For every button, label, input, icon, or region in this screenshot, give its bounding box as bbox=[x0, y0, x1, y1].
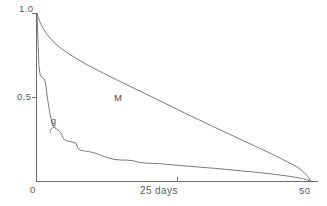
y-axis-tick-label-mid: 0.5 bbox=[17, 92, 31, 102]
chart-figure: 1.0 0.5 0 25 days 50 M g bbox=[0, 0, 327, 206]
curve-label-m: M bbox=[114, 93, 122, 103]
x-axis-tick-label-zero: 0 bbox=[30, 185, 36, 195]
curve-m-path bbox=[37, 14, 311, 182]
x-axis-tick-label-mid: 25 days bbox=[140, 186, 178, 196]
decay-curves-plot bbox=[0, 0, 327, 206]
y-axis-tick-label-top: 1.0 bbox=[19, 4, 33, 14]
curve-g-path bbox=[37, 14, 311, 182]
curve-label-g: g bbox=[51, 117, 56, 126]
x-axis-tick-label-max: 50 bbox=[299, 186, 310, 196]
